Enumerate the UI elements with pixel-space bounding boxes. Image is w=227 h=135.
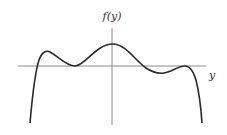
x-axis-label: y xyxy=(208,69,216,82)
y-axis-label: f(y) xyxy=(102,10,122,23)
function-graph: f(y) y xyxy=(0,0,227,135)
function-curve xyxy=(30,44,202,123)
